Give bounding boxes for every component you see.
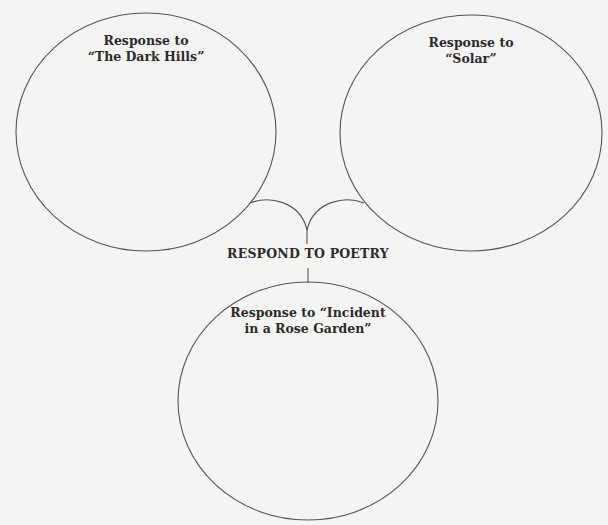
response-label-dark-hills: Response to “The Dark Hills”	[66, 33, 226, 65]
label-line-2: “The Dark Hills”	[66, 49, 226, 65]
label-line-2: in a Rose Garden”	[218, 321, 398, 337]
response-label-rose-garden: Response to “Incident in a Rose Garden”	[218, 305, 398, 337]
center-title: RESPOND TO POETRY	[208, 246, 408, 261]
response-label-solar: Response to “Solar”	[391, 35, 551, 67]
label-line-1: Response to	[391, 35, 551, 51]
label-line-1: Response to “Incident	[218, 305, 398, 321]
connector-left-curve	[250, 200, 307, 230]
label-line-1: Response to	[66, 33, 226, 49]
diagram-canvas	[0, 0, 608, 525]
connector-right-curve	[307, 200, 364, 230]
label-line-2: “Solar”	[391, 51, 551, 67]
